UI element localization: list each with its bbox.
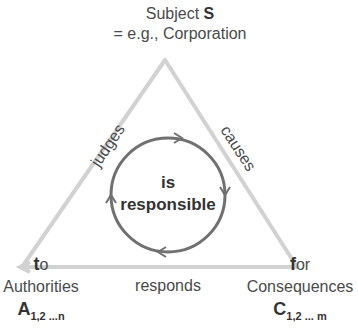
arrow-to-subject-icon — [158, 60, 172, 70]
consequences-name: Consequences — [242, 276, 358, 298]
authorities-name: Authorities — [0, 276, 82, 298]
subject-symbol: S — [204, 5, 215, 22]
consequences-node: for Consequences C1,2 ... m — [242, 253, 358, 327]
edge-label-responds: responds — [128, 277, 208, 295]
authorities-symbol: A1,2 ...n — [0, 298, 82, 327]
center-label: is responsible — [113, 172, 223, 216]
consequences-symbol: C1,2 ... m — [242, 298, 358, 327]
consequences-preposition: for — [242, 253, 358, 276]
subject-title: Subject S — [110, 4, 250, 24]
subject-example: = e.g., Corporation — [110, 24, 250, 44]
authorities-node: to Authorities A1,2 ...n — [0, 253, 82, 327]
authorities-preposition: to — [0, 253, 82, 276]
edge-label-causes: causes — [217, 122, 259, 174]
subject-node: Subject S = e.g., Corporation — [110, 4, 250, 44]
